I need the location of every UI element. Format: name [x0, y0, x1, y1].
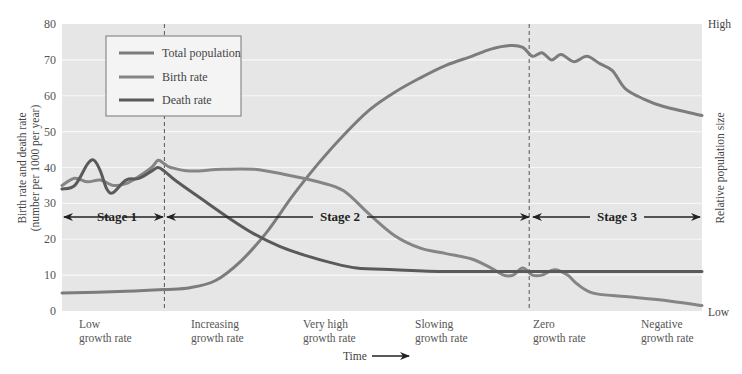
legend-label-birth: Birth rate	[162, 70, 208, 84]
stage-3-label: Stage 3	[597, 209, 638, 224]
y2-high-label: High	[708, 18, 731, 31]
y-tick-label: 50	[44, 125, 56, 139]
legend-label-population: Total population	[162, 46, 241, 60]
phase-label-6a: Negative	[641, 318, 683, 331]
y-tick-label: 40	[44, 161, 56, 175]
y-tick-label: 0	[50, 304, 56, 318]
x-axis-title: Time	[343, 350, 409, 362]
phase-label-2b: growth rate	[191, 332, 244, 345]
phase-label-3a: Very high	[303, 318, 348, 331]
legend: Total population Birth rate Death rate	[106, 36, 241, 116]
y-tick-label: 20	[44, 232, 56, 246]
phase-label-4a: Slowing	[415, 318, 454, 331]
phase-labels: Low growth rate Increasing growth rate V…	[79, 318, 694, 345]
y-axis-title-sub: (number per 1000 per year)	[29, 105, 42, 232]
demographic-transition-chart: 01020304050607080 Stage 1 Stage 2 Stage …	[0, 0, 742, 374]
phase-label-6b: growth rate	[641, 332, 694, 345]
legend-label-death: Death rate	[162, 93, 212, 107]
y-axis-title-main: Birth rate and death rate	[16, 112, 28, 223]
phase-label-5b: growth rate	[533, 332, 586, 345]
phase-label-1b: growth rate	[79, 332, 132, 345]
x-axis-title-text: Time	[343, 350, 367, 362]
phase-label-3b: growth rate	[303, 332, 356, 345]
y-tick-label: 30	[44, 196, 56, 210]
phase-label-4b: growth rate	[415, 332, 468, 345]
y2-axis-title: Relative population size	[714, 112, 727, 223]
y-axis-title: Birth rate and death rate (number per 10…	[16, 105, 42, 232]
y-tick-label: 80	[44, 17, 56, 31]
y-tick-label: 10	[44, 268, 56, 282]
y-tick-label: 70	[44, 53, 56, 67]
y-tick-label: 60	[44, 89, 56, 103]
phase-label-1a: Low	[79, 318, 101, 330]
y2-low-label: Low	[708, 306, 730, 318]
y-axis-ticks: 01020304050607080	[44, 17, 56, 318]
stage-1-label: Stage 1	[97, 209, 137, 224]
phase-label-2a: Increasing	[191, 318, 239, 331]
phase-label-5a: Zero	[533, 318, 555, 330]
y2-axis-title-text: Relative population size	[714, 112, 727, 223]
stage-2-label: Stage 2	[320, 209, 360, 224]
